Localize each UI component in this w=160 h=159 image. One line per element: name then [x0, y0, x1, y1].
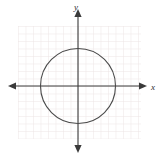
y-axis-label: y — [73, 2, 78, 12]
x-axis-left-arrow-icon — [8, 82, 16, 89]
y-axis-down-arrow-icon — [74, 145, 81, 153]
graph-canvas: y x — [0, 0, 160, 159]
x-axis-right-arrow-icon — [139, 82, 147, 89]
coordinate-plane-figure: y x — [0, 0, 160, 159]
x-axis-label: x — [150, 82, 155, 92]
grid-background — [18, 26, 141, 139]
